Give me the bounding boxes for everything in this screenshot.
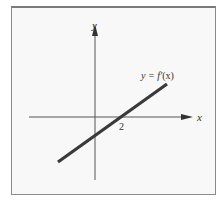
- y-axis-label: y: [91, 19, 97, 31]
- curve-label: y = f′(x): [140, 70, 174, 82]
- x-axis-label: x: [196, 111, 202, 123]
- x-axis-arrow-icon: [181, 114, 193, 120]
- x-tick-label-2: 2: [119, 121, 124, 132]
- curve-label-prefix: y =: [140, 70, 157, 81]
- curve-label-arg: (x): [162, 70, 174, 82]
- derivative-line: [58, 84, 167, 162]
- derivative-plot: y x 2 y = f′(x): [0, 0, 222, 200]
